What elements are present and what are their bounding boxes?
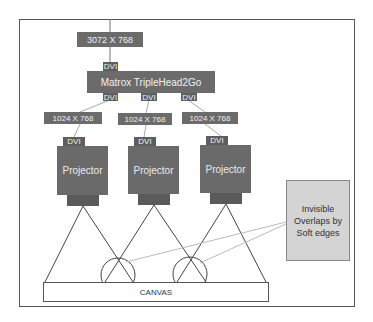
connector-lines: [0, 0, 373, 322]
splitter-output-dvi-2: DVI: [141, 93, 157, 101]
projector-3-lens: [210, 193, 242, 204]
splitter-output-dvi-3: DVI: [181, 93, 197, 101]
projector-1: Projector: [57, 146, 108, 195]
projector-2-dvi: DVI: [134, 137, 156, 146]
splitter-box: Matrox TripleHead2Go: [87, 71, 215, 93]
projector-3: Projector: [200, 145, 251, 193]
output-resolution-box-1: 1024 X 768: [44, 112, 102, 124]
projector-1-dvi: DVI: [63, 137, 85, 146]
output-resolution-box-2: 1024 X 768: [118, 113, 172, 125]
source-resolution-box: 3072 X 768: [77, 32, 143, 47]
splitter-output-dvi-1: DVI: [103, 93, 118, 101]
projector-2-lens: [138, 194, 170, 205]
output-resolution-box-3: 1024 X 768: [182, 112, 238, 124]
overlap-note: Invisible Overlaps by Soft edges: [286, 180, 350, 261]
projection-canvas: CANVAS: [43, 282, 269, 302]
projector-3-dvi: DVI: [206, 136, 228, 145]
projector-2: Projector: [128, 146, 179, 194]
splitter-input-dvi: DVI: [103, 62, 118, 71]
projector-1-lens: [67, 195, 99, 206]
